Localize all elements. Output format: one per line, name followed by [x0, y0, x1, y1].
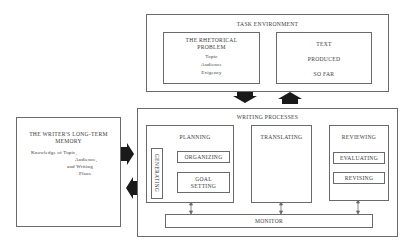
evaluating-box: EVALUATING: [333, 152, 385, 164]
generating-label: GENERATING: [154, 148, 160, 198]
long-term-memory-title-line2: MEMORY: [17, 138, 120, 145]
long-term-memory-desc-line1: Knowledge of Topic,: [31, 150, 77, 156]
long-term-memory-desc-line4: Plans: [79, 171, 91, 177]
text-produced-line3: SO FAR: [277, 71, 371, 78]
monitor-label: MONITOR: [166, 218, 372, 225]
rhetorical-problem-box: THE RHETORICAL PROBLEM Topic Audience Ex…: [163, 32, 260, 84]
generating-box: GENERATING: [151, 148, 163, 199]
text-produced-box: TEXT PRODUCED SO FAR: [276, 32, 372, 84]
rhetorical-problem-item-audience: Audience: [164, 62, 259, 68]
goal-setting-box: GOAL SETTING: [177, 172, 230, 193]
revising-box: REVISING: [333, 172, 385, 184]
long-term-memory-desc-line2: Audience,: [75, 157, 97, 163]
long-term-memory-title-line1: THE WRITER'S LONG-TERM: [17, 131, 120, 138]
long-term-memory-desc-line3: and Writing: [67, 164, 93, 170]
organizing-label: ORGANIZING: [178, 154, 229, 161]
text-produced-line1: TEXT: [277, 41, 371, 48]
rhetorical-problem-title-line1: THE RHETORICAL: [164, 37, 259, 44]
evaluating-label: EVALUATING: [334, 155, 384, 162]
task-environment-title: TASK ENVIRONMENT: [147, 21, 388, 28]
long-term-memory-box: THE WRITER'S LONG-TERM MEMORY Knowledge …: [16, 117, 121, 227]
arrow-right-icon: [121, 143, 134, 165]
rhetorical-problem-title-line2: PROBLEM: [164, 44, 259, 51]
organizing-box: ORGANIZING: [177, 151, 230, 163]
rhetorical-problem-item-exigency: Exigency: [164, 70, 259, 76]
rhetorical-problem-item-topic: Topic: [164, 54, 259, 60]
goal-setting-line1: GOAL: [178, 176, 229, 183]
revising-label: REVISING: [334, 175, 384, 182]
arrow-down-icon: [233, 92, 257, 103]
planning-title: PLANNING: [157, 134, 233, 141]
reviewing-title: REVIEWING: [330, 134, 388, 141]
translating-title: TRANSLATING: [252, 134, 311, 141]
monitor-box: MONITOR: [165, 214, 373, 228]
translating-box: TRANSLATING: [251, 125, 312, 203]
arrow-up-icon: [278, 92, 302, 104]
text-produced-line2: PRODUCED: [277, 56, 371, 63]
goal-setting-line2: SETTING: [178, 183, 229, 190]
writing-processes-title: WRITING PROCESSES: [138, 114, 397, 121]
